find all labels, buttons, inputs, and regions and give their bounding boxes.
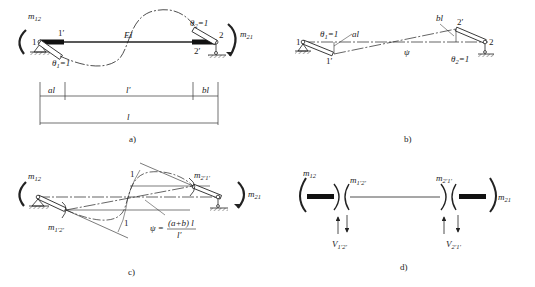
label-c-m1p2p: m1′2′ — [48, 222, 64, 233]
label-d-V2p1p: V2′1′ — [446, 239, 461, 250]
label-c-psi: ψ = — [150, 223, 164, 233]
label-d-m21: m21 — [498, 192, 511, 203]
dim-l: l — [127, 112, 130, 122]
label-b-al: al — [352, 29, 360, 39]
label-theta2: θ2=1 — [190, 18, 208, 29]
label-d-m12: m12 — [303, 168, 317, 179]
panel-c: m12 m21 m1′2′ m2′1′ 1 — [19, 163, 261, 277]
label-c-m2p1p: m2′1′ — [194, 170, 210, 181]
panel-a: m12 m21 1 1′ 2 2′ EI θ1=1 θ2=1 — [19, 10, 253, 144]
caption-c: c) — [128, 267, 135, 277]
beam-rigid-end-diagram: m12 m21 1 1′ 2 2′ EI θ1=1 θ2=1 — [0, 0, 535, 287]
label-node-2p: 2′ — [194, 46, 201, 56]
label-node-1p: 1′ — [58, 28, 65, 38]
dim-l-prime: l′ — [126, 85, 132, 95]
label-b-theta2: θ2=1 — [451, 54, 469, 65]
label-m12: m12 — [28, 11, 42, 22]
label-theta1: θ1=1 — [52, 58, 70, 69]
label-c-psi-numerator: (a+b) l — [168, 218, 194, 228]
label-b-node-1p: 1′ — [326, 56, 333, 66]
label-b-theta1: θ1=1 — [320, 29, 338, 40]
label-node-1: 1 — [32, 37, 37, 47]
rigid-block-right — [459, 194, 486, 199]
caption-a: a) — [129, 134, 136, 144]
panel-b: 1 1′ 2 2′ θ1=1 θ2=1 al bl ψ b) — [295, 13, 494, 144]
dim-al: al — [48, 85, 56, 95]
label-c-psi-denominator: l′ — [177, 230, 183, 240]
rigid-block-left — [307, 194, 334, 199]
label-EI: EI — [123, 30, 133, 40]
moment-d-m21-arc — [490, 178, 496, 212]
label-d-V1p2p: V1′2′ — [332, 239, 347, 250]
moment-d-m12-arc — [300, 178, 306, 212]
dim-bl: bl — [202, 85, 210, 95]
rigid-end-right — [455, 27, 486, 43]
label-c-one-bottom: 1 — [124, 218, 129, 228]
moment-m12-arc — [19, 30, 26, 54]
label-b-node-1: 1 — [296, 37, 301, 47]
moment-m21-arc — [228, 24, 236, 56]
label-d-m2p1p: m2′1′ — [436, 173, 452, 184]
label-b-node-2: 2 — [489, 37, 494, 47]
moment-c-m12-arc — [19, 182, 26, 206]
label-c-one-top: 1 — [130, 169, 135, 179]
panel-d: m12 m21 m1′2′ m2′1′ V1′2′ V2′1′ d) — [300, 168, 511, 272]
label-d-m1p2p: m1′2′ — [350, 175, 366, 186]
label-node-2: 2 — [219, 30, 224, 40]
label-c-m21: m21 — [248, 189, 261, 200]
caption-d: d) — [400, 262, 408, 272]
caption-b: b) — [404, 134, 412, 144]
label-b-psi: ψ — [404, 47, 410, 57]
label-m21: m21 — [240, 29, 253, 40]
label-c-m12: m12 — [28, 171, 42, 182]
label-b-node-2p: 2′ — [457, 17, 464, 27]
label-b-bl: bl — [436, 13, 444, 23]
